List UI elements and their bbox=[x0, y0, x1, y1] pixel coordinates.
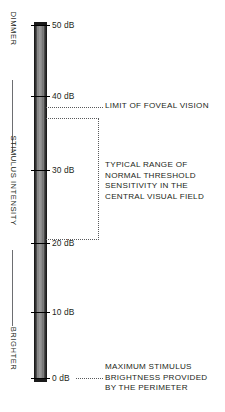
axis-label-dimmer: DIMMER bbox=[9, 0, 18, 59]
tick-mark-50db bbox=[31, 25, 50, 26]
axis-label-stimulus-intensity: STIMULUS INTENSITY bbox=[9, 125, 18, 237]
intensity-gradient-bar bbox=[34, 22, 47, 382]
tick-mark-30db bbox=[31, 170, 50, 171]
gradient-sheen-line bbox=[43, 22, 44, 382]
tick-label-0db: 0 dB bbox=[52, 374, 70, 382]
bracket-bottom-edge bbox=[46, 239, 99, 240]
annotation-maximum-stimulus: MAXIMUM STIMULUS BRIGHTNESS PROVIDED BY … bbox=[105, 362, 207, 394]
annotation-foveal-limit: LIMIT OF FOVEAL VISION bbox=[105, 101, 209, 112]
gradient-sheen-line bbox=[37, 22, 38, 382]
annotation-typical-range: TYPICAL RANGE OF NORMAL THRESHOLD SENSIT… bbox=[105, 160, 204, 202]
gradient-bar-bottom-cap bbox=[34, 379, 47, 382]
tick-mark-20db bbox=[31, 243, 50, 244]
tick-label-20db: 20 dB bbox=[52, 239, 74, 247]
axis-label-brighter: BRIGHTER bbox=[9, 319, 18, 379]
tick-mark-40db bbox=[31, 96, 50, 97]
leader-line-maximum-stimulus bbox=[76, 378, 103, 379]
bracket-top-edge bbox=[46, 118, 99, 119]
tick-mark-0db bbox=[31, 378, 50, 379]
stimulus-intensity-figure: DIMMER STIMULUS INTENSITY BRIGHTER 50 dB… bbox=[0, 0, 225, 412]
tick-label-30db: 30 dB bbox=[52, 166, 74, 174]
tick-label-40db: 40 dB bbox=[52, 92, 74, 100]
vertical-axis: DIMMER STIMULUS INTENSITY BRIGHTER bbox=[0, 0, 26, 412]
tick-label-50db: 50 dB bbox=[52, 21, 74, 29]
bracket-right-edge bbox=[98, 118, 99, 240]
tick-label-10db: 10 dB bbox=[52, 308, 74, 316]
axis-rule-lower bbox=[12, 250, 13, 326]
leader-line-foveal-limit bbox=[46, 107, 103, 108]
tick-mark-10db bbox=[31, 312, 50, 313]
